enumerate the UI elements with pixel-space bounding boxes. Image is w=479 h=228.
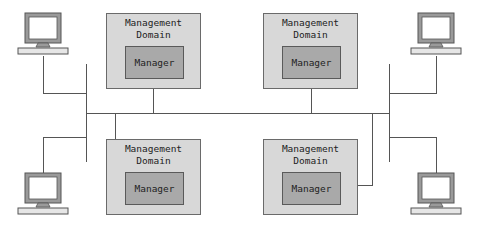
link-bottom-left-pc-v — [43, 137, 44, 173]
network-bus — [86, 113, 390, 114]
management-domain-top-left: Management Domain Manager — [106, 13, 201, 89]
computer-icon — [17, 172, 69, 216]
link-bottom-left-pc-h — [43, 137, 87, 138]
computer-icon — [410, 172, 462, 216]
domain-title: Management Domain — [264, 17, 357, 41]
link-bottom-right-manager-v — [372, 113, 373, 186]
manager-box: Manager — [125, 172, 184, 205]
manager-box: Manager — [282, 46, 341, 79]
link-top-left-pc-h — [43, 93, 87, 94]
management-domain-bottom-left: Management Domain Manager — [106, 139, 201, 215]
domain-title: Management Domain — [107, 143, 200, 167]
link-top-left-domain — [153, 89, 154, 114]
domain-title: Management Domain — [264, 143, 357, 167]
computer-icon — [17, 12, 69, 56]
link-top-left-pc-v — [43, 56, 44, 94]
right-trunk — [389, 64, 390, 162]
domain-title: Management Domain — [107, 17, 200, 41]
manager-box: Manager — [125, 46, 184, 79]
link-bottom-right-pc-v — [436, 137, 437, 173]
link-top-right-domain — [311, 89, 312, 114]
manager-box: Manager — [282, 172, 341, 205]
management-domain-bottom-right: Management Domain Manager — [263, 139, 358, 215]
link-top-right-pc-v — [436, 56, 437, 94]
management-domain-top-right: Management Domain Manager — [263, 13, 358, 89]
computer-icon — [410, 12, 462, 56]
left-trunk — [86, 64, 87, 162]
link-bottom-right-pc-h — [389, 137, 436, 138]
link-top-right-pc-h — [389, 93, 436, 94]
